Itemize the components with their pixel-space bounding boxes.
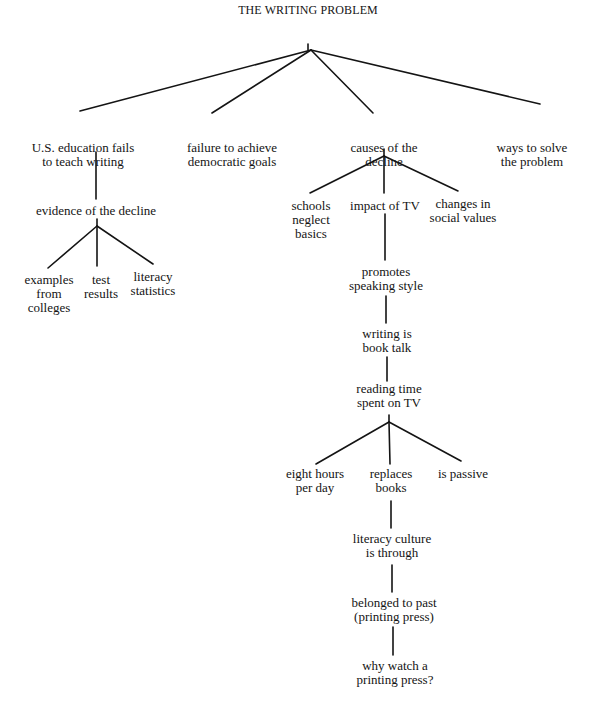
node-label-line: examples (24, 273, 73, 287)
node-evidence-decline: evidence of the decline (36, 204, 156, 218)
edge-reading-time-to-replaces-books (389, 422, 390, 464)
tree-connector-lines (0, 0, 592, 704)
node-label-line: failure to achieve (187, 141, 277, 155)
node-label-line: (printing press) (351, 610, 436, 624)
edge-reading-time-to-is-passive (389, 422, 461, 461)
node-is-passive: is passive (438, 467, 488, 481)
edge-evidence-decline-to-examples-colleges (48, 226, 97, 268)
node-eight-hours: eight hoursper day (286, 467, 344, 495)
node-label-line: speaking style (349, 279, 423, 293)
node-label-line: reading time (356, 382, 421, 396)
writing-problem-tree-diagram: THE WRITING PROBLEMU.S. education failst… (0, 0, 592, 704)
node-label-line: belonged to past (351, 596, 436, 610)
node-label-line: changes in (430, 197, 497, 211)
node-label-line: the problem (497, 155, 568, 169)
edge-root-to-ways-solve (311, 50, 540, 104)
node-label-line: spent on TV (356, 396, 421, 410)
node-impact-tv: impact of TV (350, 199, 420, 213)
node-promotes-speaking: promotesspeaking style (349, 265, 423, 293)
node-label-line: colleges (24, 301, 73, 315)
node-label-line: results (84, 287, 118, 301)
node-label-line: test (84, 273, 118, 287)
node-schools-neglect: schoolsneglectbasics (292, 199, 331, 241)
node-label-line: literacy culture (353, 532, 431, 546)
node-label-line: schools (292, 199, 331, 213)
edge-root-to-failure-democratic (212, 50, 311, 113)
node-label-line: statistics (131, 284, 176, 298)
node-label-line: social values (430, 211, 497, 225)
node-label-line: literacy (131, 270, 176, 284)
node-label-line: democratic goals (187, 155, 277, 169)
node-label-line: is passive (438, 467, 488, 481)
edge-root-to-causes-decline (311, 50, 373, 113)
node-test-results: testresults (84, 273, 118, 301)
node-label-line: decline (350, 155, 417, 169)
node-label-line: books (370, 481, 413, 495)
node-label-line: THE WRITING PROBLEM (238, 3, 378, 17)
node-label-line: promotes (349, 265, 423, 279)
node-causes-decline: causes of thedecline (350, 141, 417, 169)
node-label-line: from (24, 287, 73, 301)
node-us-education: U.S. education failsto teach writing (32, 141, 135, 169)
node-label-line: why watch a (357, 659, 434, 673)
edge-evidence-decline-to-literacy-statistics (97, 226, 153, 264)
node-why-watch: why watch aprinting press? (357, 659, 434, 687)
node-failure-democratic: failure to achievedemocratic goals (187, 141, 277, 169)
node-label-line: printing press? (357, 673, 434, 687)
node-label-line: evidence of the decline (36, 204, 156, 218)
node-literacy-statistics: literacystatistics (131, 270, 176, 298)
node-ways-solve: ways to solvethe problem (497, 141, 568, 169)
node-examples-colleges: examplesfromcolleges (24, 273, 73, 315)
node-literacy-culture: literacy cultureis through (353, 532, 431, 560)
node-writing-book-talk: writing isbook talk (362, 327, 411, 355)
node-label-line: causes of the (350, 141, 417, 155)
node-label-line: writing is (362, 327, 411, 341)
node-label-line: neglect (292, 213, 331, 227)
node-label-line: eight hours (286, 467, 344, 481)
node-label-line: per day (286, 481, 344, 495)
node-label-line: to teach writing (32, 155, 135, 169)
node-root: THE WRITING PROBLEM (238, 3, 378, 17)
edge-root-to-us-education (80, 50, 311, 111)
edge-reading-time-to-eight-hours (316, 422, 389, 464)
node-label-line: replaces (370, 467, 413, 481)
node-replaces-books: replacesbooks (370, 467, 413, 495)
node-label-line: book talk (362, 341, 411, 355)
node-label-line: ways to solve (497, 141, 568, 155)
node-changes-social: changes insocial values (430, 197, 497, 225)
node-label-line: U.S. education fails (32, 141, 135, 155)
node-label-line: is through (353, 546, 431, 560)
node-label-line: impact of TV (350, 199, 420, 213)
node-belonged-past: belonged to past(printing press) (351, 596, 436, 624)
node-reading-time: reading timespent on TV (356, 382, 421, 410)
node-label-line: basics (292, 227, 331, 241)
